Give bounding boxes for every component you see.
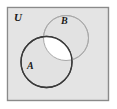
venn-diagram-figure: U B A bbox=[0, 0, 117, 109]
set-label-b: B bbox=[60, 15, 68, 26]
set-label-a: A bbox=[26, 60, 34, 71]
venn-diagram-canvas: U B A bbox=[0, 0, 117, 109]
universal-set-label: U bbox=[14, 11, 23, 23]
